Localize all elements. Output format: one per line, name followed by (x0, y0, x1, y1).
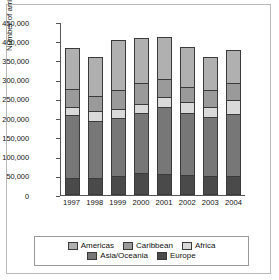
x-axis-tick-label-1997: 1997 (61, 198, 83, 207)
legend-swatch-africa-icon (182, 242, 192, 250)
bar-segment-caribbean-2002[interactable] (181, 87, 194, 102)
bar-segment-europe-2001[interactable] (158, 174, 171, 194)
bar-segment-americas-2001[interactable] (158, 38, 171, 80)
bar-segment-asia-oceania-2000[interactable] (135, 113, 148, 173)
bar-segment-africa-2003[interactable] (204, 107, 217, 117)
legend-swatch-caribbean-icon (123, 242, 133, 250)
bar-segment-asia-oceania-2001[interactable] (158, 107, 171, 175)
bar-segment-asia-oceania-1997[interactable] (66, 115, 79, 178)
y-axis-tick-mark (56, 196, 60, 197)
bar-segment-asia-oceania-1999[interactable] (112, 118, 125, 176)
y-axis-tick-label: 300,000 (0, 77, 29, 84)
legend-item-africa[interactable]: Africa (182, 241, 215, 250)
legend-label-americas: Americas (81, 241, 114, 250)
y-axis-tick-label: 50,000 (0, 173, 29, 180)
bar-segment-africa-2000[interactable] (135, 104, 148, 113)
bar-segment-africa-2002[interactable] (181, 102, 194, 113)
y-axis-tick-label: 100,000 (0, 154, 29, 161)
bar-2002[interactable] (180, 47, 195, 195)
bar-2004[interactable] (226, 50, 241, 195)
legend-swatch-europe-icon (157, 252, 167, 260)
x-axis-tick-label-2003: 2003 (199, 198, 221, 207)
bar-segment-europe-2003[interactable] (204, 176, 217, 194)
bar-1998[interactable] (88, 57, 103, 195)
x-axis-tick-label-2004: 2004 (222, 198, 244, 207)
bar-segment-americas-2002[interactable] (181, 48, 194, 87)
y-axis-tick-label: 0 (0, 193, 29, 200)
bar-segment-caribbean-2001[interactable] (158, 79, 171, 97)
bar-segment-caribbean-2003[interactable] (204, 90, 217, 107)
bar-segment-africa-1997[interactable] (66, 107, 79, 115)
bar-segment-europe-1998[interactable] (89, 178, 102, 194)
bar-segment-europe-2002[interactable] (181, 175, 194, 194)
legend-label-caribbean: Caribbean (136, 241, 173, 250)
chart-legend: AmericasCaribbeanAfrica Asia/OceaniaEuro… (34, 236, 249, 266)
bar-segment-americas-2003[interactable] (204, 58, 217, 90)
bar-segment-americas-2004[interactable] (227, 51, 240, 82)
bar-segment-europe-1997[interactable] (66, 178, 79, 194)
y-axis-tick-label: 350,000 (0, 58, 29, 65)
bar-segment-europe-1999[interactable] (112, 176, 125, 194)
chart-frame: Number of arrivals 450,000400,000350,000… (6, 4, 271, 274)
bar-2000[interactable] (134, 38, 149, 195)
bar-segment-africa-2001[interactable] (158, 97, 171, 107)
bar-group (61, 23, 245, 195)
y-axis-tick-label: 400,000 (0, 39, 29, 46)
legend-swatch-americas-icon (68, 242, 78, 250)
y-axis-tick-label: 450,000 (0, 20, 29, 27)
legend-label-africa: Africa (195, 241, 215, 250)
legend-label-asia: Asia/Oceania (100, 251, 148, 260)
bar-1999[interactable] (111, 40, 126, 195)
y-axis-tick-label: 250,000 (0, 96, 29, 103)
x-axis-tick-label-2000: 2000 (130, 198, 152, 207)
bar-segment-asia-oceania-2002[interactable] (181, 113, 194, 175)
y-axis-tick-label: 200,000 (0, 116, 29, 123)
bar-segment-americas-1999[interactable] (112, 41, 125, 90)
x-axis-tick-label-2002: 2002 (176, 198, 198, 207)
bar-segment-americas-2000[interactable] (135, 39, 148, 83)
x-axis-tick-label-2001: 2001 (153, 198, 175, 207)
legend-item-caribbean[interactable]: Caribbean (123, 241, 173, 250)
bar-segment-asia-oceania-2004[interactable] (227, 114, 240, 176)
bar-segment-asia-oceania-1998[interactable] (89, 121, 102, 178)
x-axis-tick-label-1999: 1999 (107, 198, 129, 207)
legend-row-secondary: Asia/OceaniaEurope (37, 251, 246, 260)
legend-label-europe: Europe (170, 251, 196, 260)
legend-item-asia[interactable]: Asia/Oceania (87, 251, 148, 260)
bar-segment-caribbean-1999[interactable] (112, 90, 125, 109)
x-axis-tick-label-1998: 1998 (84, 198, 106, 207)
bar-segment-europe-2000[interactable] (135, 173, 148, 194)
bar-1997[interactable] (65, 48, 80, 195)
plot-area (60, 23, 245, 196)
bar-segment-africa-2004[interactable] (227, 100, 240, 114)
bar-segment-africa-1998[interactable] (89, 111, 102, 121)
bar-segment-caribbean-2000[interactable] (135, 83, 148, 104)
legend-item-americas[interactable]: Americas (68, 241, 114, 250)
legend-swatch-asia-icon (87, 252, 97, 260)
bar-segment-africa-1999[interactable] (112, 109, 125, 119)
y-axis-tick-label: 150,000 (0, 135, 29, 142)
bar-segment-caribbean-2004[interactable] (227, 83, 240, 100)
bar-segment-americas-1998[interactable] (89, 58, 102, 95)
bar-segment-americas-1997[interactable] (66, 49, 79, 89)
bar-2003[interactable] (203, 57, 218, 195)
legend-item-europe[interactable]: Europe (157, 251, 196, 260)
bar-2001[interactable] (157, 37, 172, 195)
bar-segment-asia-oceania-2003[interactable] (204, 117, 217, 176)
x-axis-tick-labels: 19971998199920002001200220032004 (60, 198, 245, 207)
legend-row-primary: AmericasCaribbeanAfrica (37, 241, 246, 250)
bar-segment-caribbean-1997[interactable] (66, 89, 79, 107)
bar-segment-europe-2004[interactable] (227, 176, 240, 194)
bar-segment-caribbean-1998[interactable] (89, 96, 102, 111)
